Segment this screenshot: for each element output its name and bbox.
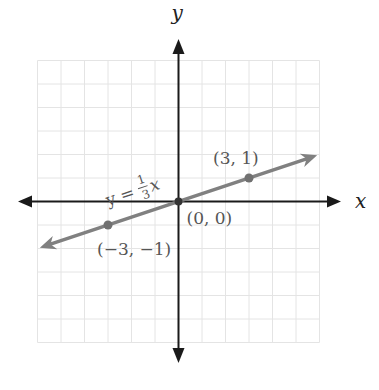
y-axis-up-arrow-icon	[173, 39, 185, 54]
equation-numerator: 1	[135, 172, 147, 188]
data-point-marker	[104, 221, 113, 230]
x-axis-label: x	[355, 189, 366, 213]
data-point-label: (3, 1)	[213, 148, 259, 168]
y-axis-down-arrow-icon	[173, 348, 185, 363]
coordinate-plane: x y (−3, −1)(0, 0)(3, 1) y = 1 3 x	[0, 0, 379, 390]
data-point-marker	[245, 174, 254, 183]
data-point-label: (−3, −1)	[97, 239, 171, 259]
x-axis-left-arrow-icon	[18, 196, 32, 208]
x-axis-right-arrow-icon	[327, 196, 341, 208]
y-axis-label: y	[171, 1, 184, 25]
data-point-label: (0, 0)	[187, 208, 233, 228]
data-point-marker	[175, 198, 183, 206]
y-axis: y	[171, 1, 185, 363]
